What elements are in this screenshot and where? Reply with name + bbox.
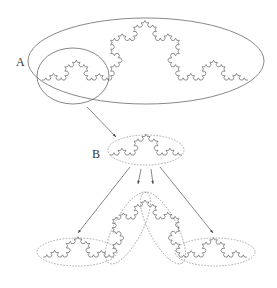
bottom-center-right-ellipse xyxy=(132,186,194,270)
bottom-right-ellipse xyxy=(175,238,255,266)
ellipses-layer xyxy=(28,18,264,270)
bottom-center-left-ellipse xyxy=(97,186,159,270)
bottom-center-right-koch-curve xyxy=(145,200,180,257)
arrows-layer xyxy=(78,107,213,233)
ellipse-b xyxy=(108,135,184,165)
ellipse-a xyxy=(28,18,264,104)
small-circle xyxy=(37,48,109,104)
arrow-b-to-center-left xyxy=(137,169,141,184)
b-koch-curve xyxy=(110,134,182,155)
bottom-left-ellipse xyxy=(37,238,117,266)
top-koch-curve xyxy=(42,21,248,80)
koch-self-similarity-diagram: A B xyxy=(0,0,277,288)
arrow-b-to-bottom-right xyxy=(160,167,213,233)
arrow-shaft xyxy=(87,107,116,137)
arrow-shaft xyxy=(78,167,130,233)
label-a: A xyxy=(16,55,25,69)
bottom-center-left-koch-curve xyxy=(113,200,145,257)
bottom-left-koch-curve xyxy=(43,237,113,257)
arrowhead-icon xyxy=(137,181,140,184)
koch-curves-layer xyxy=(42,21,248,257)
arrow-shaft xyxy=(160,167,213,233)
label-b: B xyxy=(92,147,100,161)
arrow-a-to-b xyxy=(87,107,116,137)
arrow-b-to-bottom-left xyxy=(78,167,130,233)
arrowhead-icon xyxy=(151,181,154,184)
arrow-b-to-center-right xyxy=(151,169,154,184)
